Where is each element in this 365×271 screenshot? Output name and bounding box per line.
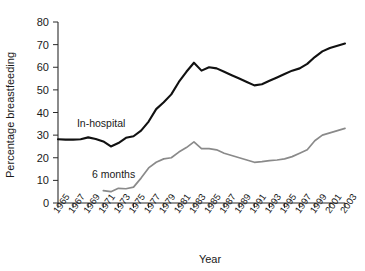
y-tick-label: 10 — [37, 174, 49, 186]
series-inline-label: In-hospital — [77, 117, 125, 129]
y-tick-label: 40 — [37, 107, 49, 119]
y-tick-label: 20 — [37, 152, 49, 164]
series-inline-label: 6 months — [92, 168, 135, 180]
series-line-in-hospital — [58, 43, 345, 146]
y-tick-label: 60 — [37, 61, 49, 73]
y-tick-label: 30 — [37, 129, 49, 141]
y-tick-label: 70 — [37, 39, 49, 51]
x-tick-label: 2003 — [338, 192, 359, 216]
y-tick-label: 50 — [37, 84, 49, 96]
y-tick-label: 80 — [37, 16, 49, 28]
y-axis-ticks — [53, 22, 58, 203]
x-axis-tick-labels: 1965196719691971197319751977197919811983… — [51, 192, 359, 216]
series-inline-labels: In-hospital6 months — [77, 117, 135, 180]
y-axis-title: Percentage breastfeeding — [4, 52, 16, 178]
chart-canvas: 01020304050607080 1965196719691971197319… — [0, 0, 365, 271]
y-axis-tick-labels: 01020304050607080 — [37, 16, 49, 209]
breastfeeding-trend-chart: 01020304050607080 1965196719691971197319… — [0, 0, 365, 271]
series-line-6-months — [103, 128, 345, 191]
x-axis-title: Year — [199, 253, 222, 265]
y-tick-label: 0 — [43, 197, 49, 209]
